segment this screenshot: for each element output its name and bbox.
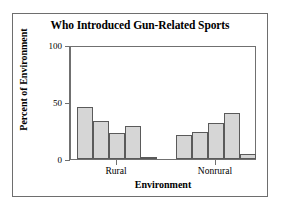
- bar: [141, 157, 157, 159]
- bar: [77, 107, 93, 159]
- x-axis-tick-label: Nonrural: [175, 166, 255, 176]
- bar: [240, 154, 256, 159]
- bar: [176, 135, 192, 159]
- bar: [93, 121, 109, 159]
- bar: [208, 123, 224, 159]
- chart-figure: Who Introduced Gun-Related Sports Percen…: [0, 0, 282, 211]
- x-axis-title: Environment: [70, 179, 256, 190]
- bar: [192, 132, 208, 159]
- x-axis-tick: [215, 160, 216, 165]
- x-axis-tick-label: Rural: [76, 166, 156, 176]
- bar: [109, 133, 125, 159]
- chart-title: Who Introduced Gun-Related Sports: [12, 19, 268, 31]
- bar: [224, 113, 240, 159]
- y-axis-tick-label: 50: [22, 99, 62, 108]
- y-axis-title: Percent of Environment: [18, 20, 29, 140]
- y-axis-tick: [65, 160, 70, 161]
- x-axis-tick: [116, 160, 117, 165]
- y-axis-tick-label: 100: [22, 42, 62, 51]
- bar: [125, 126, 141, 159]
- plot-area: [70, 46, 256, 160]
- y-axis-tick-label: 0: [22, 156, 62, 165]
